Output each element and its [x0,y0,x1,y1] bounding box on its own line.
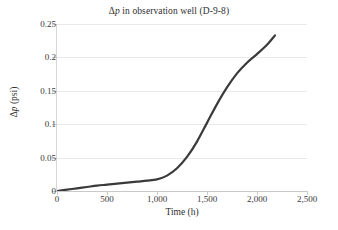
x-axis-tick-label: 500 [100,194,114,205]
y-axis-tick-label: 0.15 [40,86,56,96]
chart-title: Δp in observation well (D-9-8) [0,6,338,16]
x-axis-title-text: Time (h) [165,207,198,217]
y-axis-tick-label: 0.25 [40,19,56,29]
x-axis-title: Time (h) [57,207,307,217]
plot-area [57,24,307,191]
x-axis-tick-label: 2,500 [297,194,317,205]
chart-title-rest: in observation well (D-9-8) [120,6,229,16]
y-axis-title-variable: p [9,106,19,111]
x-axis-line [56,191,307,192]
x-axis-tick-label: 2,000 [247,194,267,205]
chart-container: Δp in observation well (D-9-8) 00.050.10… [0,0,338,230]
y-axis-tick-label: 0.05 [40,153,56,163]
y-axis-title: Δp (psi) [9,62,19,142]
y-axis-tick-label: 0.1 [45,119,56,129]
data-series-layer [57,24,307,191]
y-axis-tick-label: 0.2 [45,52,56,62]
x-axis-tick-label: 1,500 [197,194,217,205]
x-axis-tick-label: 1,000 [147,194,167,205]
data-line-delta-p [57,35,275,191]
y-axis-title-rest: (psi) [9,87,19,107]
x-axis-tick-label: 0 [55,194,60,205]
y-axis-title-delta: Δ [9,111,19,117]
